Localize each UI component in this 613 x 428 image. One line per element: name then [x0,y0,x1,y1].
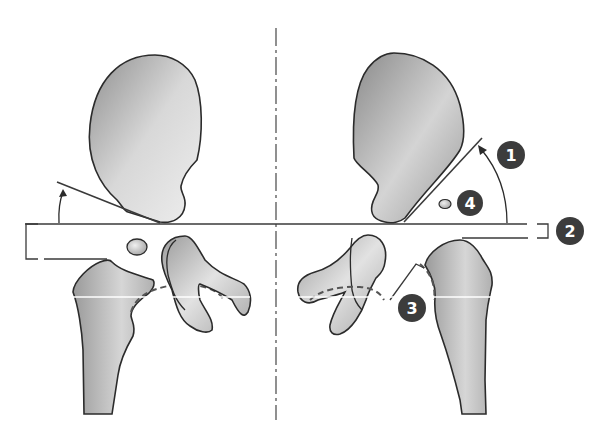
svg-text:4: 4 [464,194,475,213]
right-ilium [353,53,463,223]
label-badge-1: 1 [497,141,525,169]
shenton-line [390,264,424,300]
label-badge-2: 2 [556,217,584,245]
left-bracket [26,224,38,259]
label-badge-3: 3 [398,294,426,322]
diagram-svg: 1 2 3 4 [0,0,613,428]
left-femur [73,260,154,414]
left-arrowhead-icon [59,189,67,197]
svg-text:3: 3 [406,299,417,318]
left-ilium [89,55,201,222]
right-femur [425,240,492,414]
right-bracket [537,224,548,238]
hip-diagram: 1 2 3 4 [0,0,613,428]
left-ossification-nucleus [127,239,147,255]
left-pubis [162,236,251,332]
right-arrowhead-icon [478,145,487,155]
label-badge-4: 4 [457,190,483,216]
svg-text:1: 1 [505,146,516,165]
right-pubis [298,235,386,335]
right-ossification-nucleus [439,200,451,209]
svg-text:2: 2 [564,222,575,241]
